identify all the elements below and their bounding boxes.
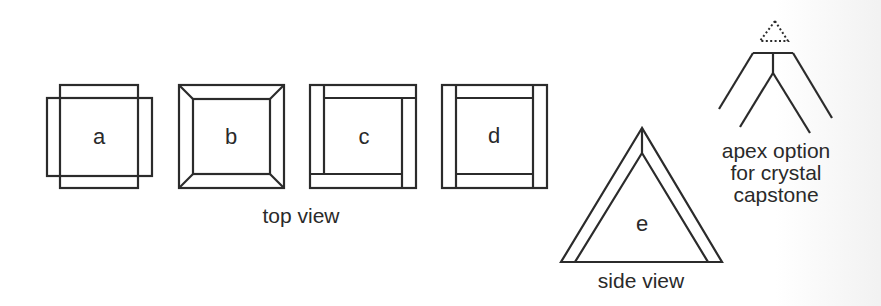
figure-c-label: c [359,126,370,148]
capstone-dotted-triangle [760,21,788,41]
figure-a-label: a [93,126,105,148]
side-view-caption: side view [598,270,684,292]
apex-option-caption: apex option for crystal capstone [722,140,831,206]
apex-inner-left-edge [740,73,773,127]
apex-inner-right-edge [773,73,810,133]
figure-e-label: e [636,213,648,235]
top-view-caption: top view [262,205,339,227]
figure-b-label: b [225,126,237,148]
apex-caption-line-2: for crystal [722,162,831,184]
figure-b-miter-br [270,174,284,188]
apex-outer-right-edge [793,53,832,118]
apex-option-shape [719,21,832,133]
figure-d-label: d [488,125,500,147]
figure-e-shape [561,128,722,262]
apex-caption-line-1: apex option [722,140,831,162]
figure-b-miter-bl [179,174,193,188]
apex-outer-left-edge [719,53,753,109]
apex-caption-line-3: capstone [722,184,831,206]
figure-b-miter-tr [270,85,284,99]
figure-b-miter-tl [179,85,193,99]
